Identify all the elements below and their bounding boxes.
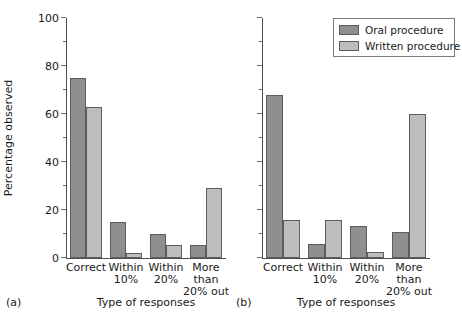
bar-written <box>126 253 142 258</box>
bar-oral <box>70 78 86 258</box>
legend-label-written: Written procedure <box>365 41 460 52</box>
panel-tag-b: (b) <box>236 296 252 309</box>
bars-a <box>66 18 226 258</box>
bar-written <box>367 252 384 258</box>
bar-written <box>325 220 342 258</box>
y-tick-label: 60 <box>45 109 59 120</box>
x-tick-label: More than20% out <box>383 262 435 298</box>
bar-oral <box>350 226 367 258</box>
x-axis-label-a: Type of responses <box>66 296 226 309</box>
bar-written <box>166 245 182 258</box>
x-tick-label-line: More than <box>383 262 435 286</box>
bar-written <box>206 188 222 258</box>
bar-oral <box>308 244 325 258</box>
bar-written <box>409 114 426 258</box>
y-tick-label: 20 <box>45 205 59 216</box>
plot-area-a: 020406080100 <box>66 18 226 258</box>
legend-label-oral: Oral procedure <box>365 25 444 36</box>
x-axis-label-b: Type of responses <box>262 296 430 309</box>
legend-swatch-oral-icon <box>339 25 359 35</box>
bar-oral <box>392 232 409 258</box>
bar-oral <box>110 222 126 258</box>
bar-oral <box>190 245 206 258</box>
y-axis-label-a: Percentage observed <box>2 80 15 196</box>
y-tick-label: 100 <box>38 13 59 24</box>
y-tick-label: 80 <box>45 61 59 72</box>
legend-swatch-written-icon <box>339 41 359 51</box>
bar-written <box>86 107 102 258</box>
y-tick-label: 0 <box>52 253 59 264</box>
x-tick-label: More than20% out <box>181 262 231 298</box>
x-tick-label-line: More than <box>181 262 231 286</box>
bar-written <box>283 220 300 258</box>
panel-tag-a: (a) <box>6 296 21 309</box>
legend: Oral procedure Written procedure <box>333 18 455 57</box>
bar-oral <box>266 95 283 258</box>
panel-a: Percentage observed 020406080100 Correct… <box>0 0 240 322</box>
legend-entry-oral: Oral procedure <box>339 22 449 38</box>
legend-entry-written: Written procedure <box>339 38 449 54</box>
y-tick-label: 40 <box>45 157 59 168</box>
figure-double-bar-chart: Percentage observed 020406080100 Correct… <box>0 0 462 322</box>
bar-oral <box>150 234 166 258</box>
